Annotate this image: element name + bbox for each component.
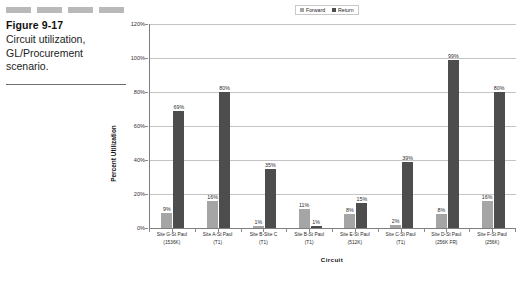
bar-return: 35% — [265, 169, 276, 229]
decorative-dash — [6, 7, 31, 13]
x-axis-category-label: Site F-St Paul(256K) — [469, 231, 515, 247]
x-axis-category-label: Site A-St Paul(T1) — [195, 231, 241, 247]
y-axis-tick — [145, 160, 148, 161]
x-label-line2: (T1) — [378, 239, 424, 247]
x-axis-category-label: Site G-St Paul(1536K) — [149, 231, 195, 247]
plot-outer: 0%20%40%60%80%100%120% 9%69%16%80%1%35%1… — [122, 24, 520, 252]
bar-return: 15% — [356, 203, 367, 229]
bar-group: 8%99% — [425, 24, 471, 228]
bar-value-label: 80% — [219, 85, 230, 91]
x-axis-title: Circuit — [149, 256, 515, 263]
x-label-line1: Site A-St Paul — [203, 232, 233, 237]
y-axis-tick — [145, 92, 148, 93]
x-axis-tick — [515, 228, 516, 232]
x-axis-category-label: Site C-St Paul(T1) — [378, 231, 424, 247]
figure-page: Figure 9-17 Circuit utilization, GL/Proc… — [0, 0, 526, 302]
legend-label-return: Return — [338, 7, 354, 13]
legend-label-forward: Forward — [306, 7, 325, 13]
bar-group: 16%80% — [196, 24, 242, 228]
y-axis-tick — [145, 194, 148, 195]
bar-return: 80% — [219, 92, 230, 228]
bar-group: 11%1% — [287, 24, 333, 228]
y-axis-labels: 0%20%40%60%80%100%120% — [122, 24, 148, 228]
y-axis-tick — [145, 24, 148, 25]
bar-value-label: 8% — [438, 207, 446, 213]
y-axis-tick-label: 20% — [134, 191, 145, 197]
decorative-dash — [68, 7, 93, 13]
bar-return: 99% — [448, 60, 459, 228]
x-label-line1: Site B-Site C — [250, 232, 277, 237]
x-axis-category-label: Site B-St Paul(T1) — [286, 231, 332, 247]
bar-value-label: 69% — [174, 104, 185, 110]
y-axis-tick-label: 0% — [137, 225, 145, 231]
decorative-dash — [37, 7, 62, 13]
x-label-line2: (T1) — [195, 239, 241, 247]
bar-value-label: 1% — [255, 219, 263, 225]
x-label-line2: (T1) — [241, 239, 287, 247]
x-label-line1: Site G-St Paul — [157, 232, 187, 237]
bar-value-label: 2% — [392, 218, 400, 224]
y-axis-tick-label: 100% — [131, 55, 145, 61]
y-axis-tick — [145, 58, 148, 59]
y-axis-tick-label: 80% — [134, 89, 145, 95]
bar-return: 39% — [402, 162, 413, 228]
x-label-line2: (1536K) — [149, 239, 195, 247]
legend-item-forward: Forward — [300, 7, 325, 13]
bar-value-label: 15% — [357, 196, 368, 202]
x-label-line1: Site B-St Paul — [294, 232, 324, 237]
y-axis-tick-label: 120% — [131, 21, 145, 27]
bar-forward: 11% — [299, 209, 310, 228]
bar-forward: 8% — [344, 214, 355, 228]
bar-return: 80% — [494, 92, 505, 228]
bar-group: 2%39% — [379, 24, 425, 228]
x-label-line1: Site E-St Paul — [340, 232, 370, 237]
bar-forward: 9% — [161, 213, 172, 228]
chart-legend: Forward Return — [295, 5, 359, 15]
x-label-line2: (T1) — [286, 239, 332, 247]
x-label-line1: Site F-St Paul — [477, 232, 507, 237]
bar-value-label: 80% — [494, 85, 505, 91]
x-label-line2: (512K) — [332, 239, 378, 247]
bar-value-label: 9% — [163, 206, 171, 212]
legend-swatch-return — [332, 8, 336, 12]
x-label-line1: Site D-St Paul — [431, 232, 461, 237]
bar-value-label: 99% — [448, 53, 459, 59]
legend-swatch-forward — [300, 8, 304, 12]
bar-groups: 9%69%16%80%1%35%11%1%8%15%2%39%8%99%16%8… — [150, 24, 516, 228]
y-axis-tick — [145, 126, 148, 127]
bar-return: 69% — [173, 111, 184, 228]
bar-value-label: 1% — [312, 219, 320, 225]
y-axis-tick-label: 60% — [134, 123, 145, 129]
y-axis-title: Percent Utilization — [106, 98, 120, 208]
x-axis-category-label: Site D-St Paul(256K FR) — [424, 231, 470, 247]
bar-group: 1%35% — [242, 24, 288, 228]
bar-value-label: 11% — [299, 202, 309, 208]
x-label-line2: (256K) — [469, 239, 515, 247]
bar-value-label: 39% — [402, 155, 413, 161]
bar-value-label: 16% — [207, 194, 218, 200]
bar-value-label: 16% — [482, 194, 493, 200]
bar-forward: 16% — [207, 201, 218, 228]
chart-container: Forward Return Percent Utilization 0%20%… — [105, 2, 523, 300]
bar-forward: 16% — [482, 201, 493, 228]
bar-group: 8%15% — [333, 24, 379, 228]
x-axis-category-label: Site B-Site C(T1) — [241, 231, 287, 247]
bar-forward: 8% — [436, 214, 447, 228]
y-axis-tick-label: 40% — [134, 157, 145, 163]
y-axis-tick — [145, 228, 148, 229]
bar-value-label: 35% — [265, 162, 276, 168]
bar-group: 9%69% — [150, 24, 196, 228]
bar-group: 16%80% — [470, 24, 516, 228]
x-label-line2: (256K FR) — [424, 239, 470, 247]
plot-area: 9%69%16%80%1%35%11%1%8%15%2%39%8%99%16%8… — [149, 24, 516, 229]
legend-item-return: Return — [332, 7, 354, 13]
x-axis-labels: Site G-St Paul(1536K)Site A-St Paul(T1)S… — [149, 231, 515, 247]
x-axis-category-label: Site E-St Paul(512K) — [332, 231, 378, 247]
bar-value-label: 8% — [346, 207, 354, 213]
x-label-line1: Site C-St Paul — [386, 232, 416, 237]
